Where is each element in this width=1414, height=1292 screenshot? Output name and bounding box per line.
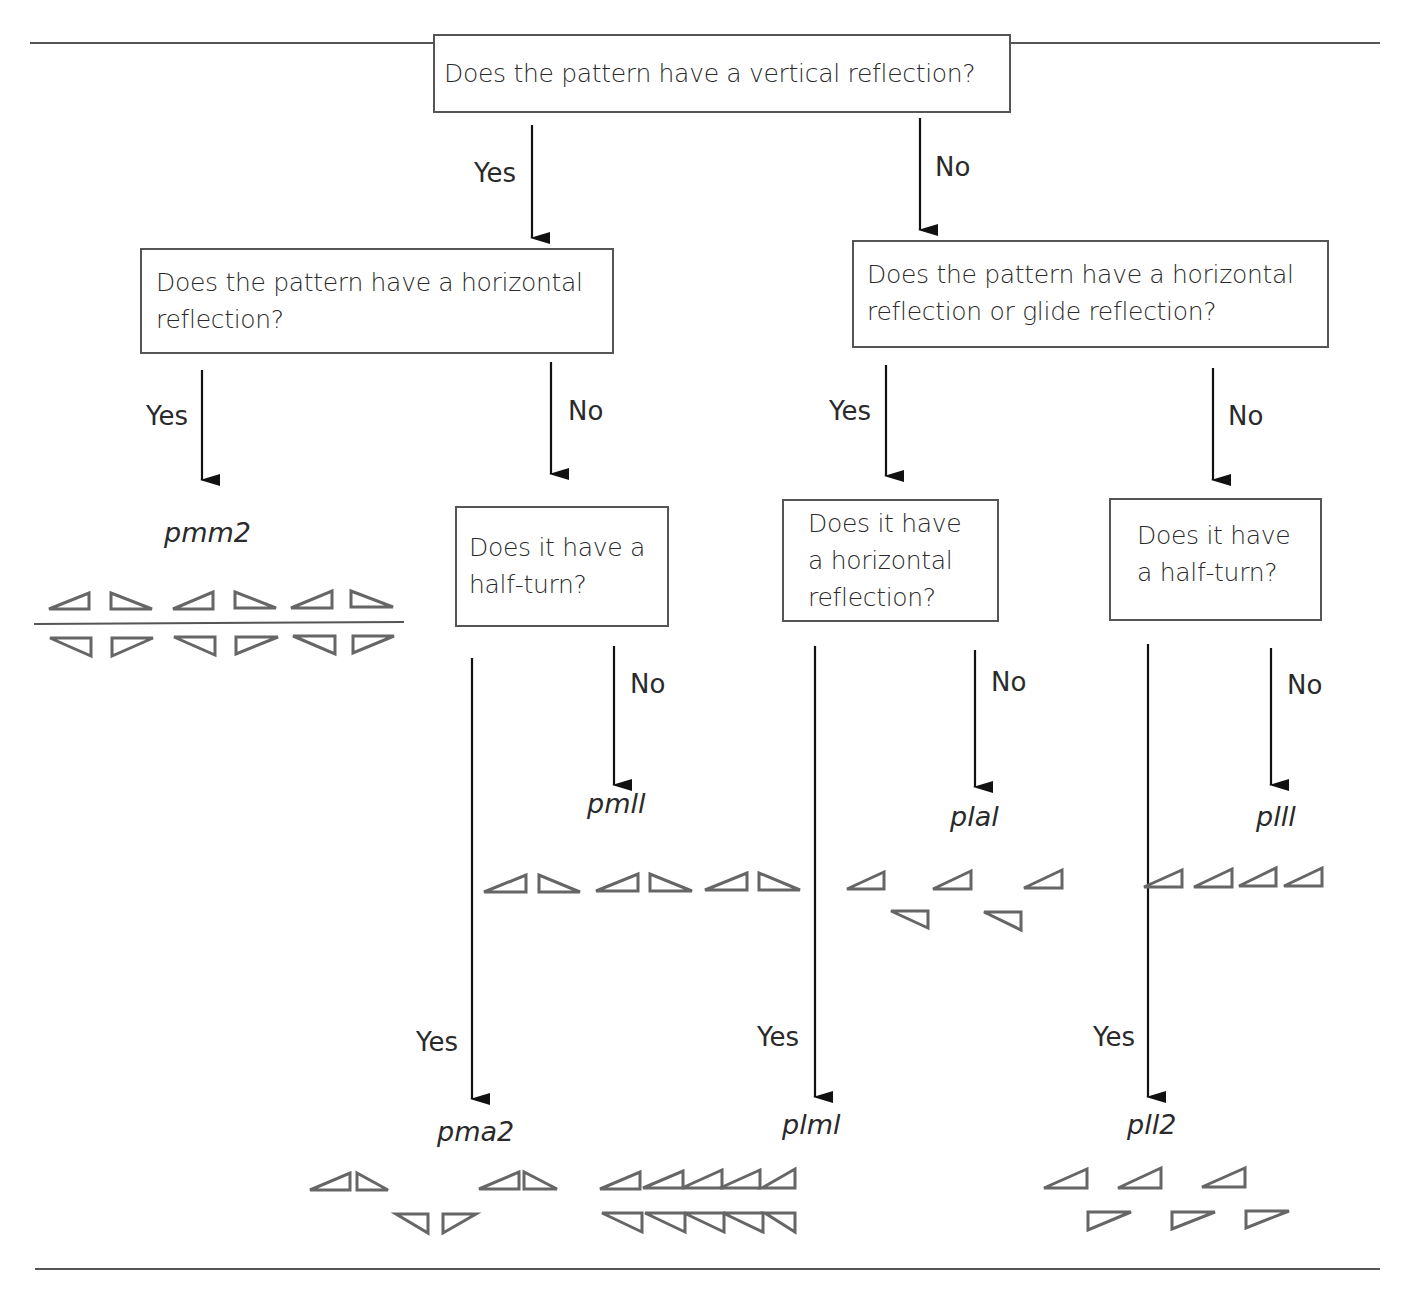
yes-label-left: Yes — [146, 401, 188, 431]
no-label-p111: No — [1287, 670, 1322, 700]
no-label-right: No — [1228, 401, 1263, 431]
group-name-p1m1: plml — [782, 1109, 840, 1140]
group-name-pma2: pma2 — [437, 1116, 514, 1147]
no-label-left: No — [568, 396, 603, 426]
question-horizontal-or-glide-reflection: Does the pattern have a horizontal refle… — [852, 240, 1329, 348]
group-name-p1a1: plal — [950, 801, 999, 832]
question-half-turn-right: Does it have a half-turn? — [1109, 498, 1322, 621]
group-name-p112: pll2 — [1127, 1109, 1176, 1140]
connector-arrows — [0, 0, 1414, 1292]
group-name-pmm2: pmm2 — [164, 517, 251, 548]
question-vertical-reflection: Does the pattern have a vertical reflect… — [433, 34, 1011, 113]
question-horizontal-reflection: Does the pattern have a horizontal refle… — [140, 248, 614, 354]
yes-label-pma2: Yes — [416, 1027, 458, 1057]
question-horizontal-reflection-right: Does it have a horizontal reflection? — [782, 499, 999, 622]
yes-label-p112: Yes — [1093, 1022, 1135, 1052]
no-label-root: No — [935, 152, 970, 182]
yes-label-p1m1: Yes — [757, 1022, 799, 1052]
yes-label-root: Yes — [474, 158, 516, 188]
group-name-pm11: pmll — [587, 788, 645, 819]
yes-label-right: Yes — [829, 396, 871, 426]
no-label-p1a1: No — [991, 667, 1026, 697]
question-half-turn-left: Does it have a half-turn? — [455, 506, 669, 627]
group-name-p111: plll — [1256, 801, 1296, 832]
no-label-pm11: No — [630, 669, 665, 699]
